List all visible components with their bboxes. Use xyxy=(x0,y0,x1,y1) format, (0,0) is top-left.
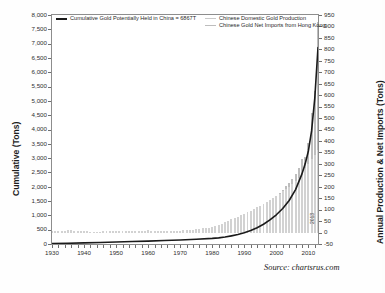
x-axis-tick-label: 2000 xyxy=(263,250,289,256)
x-axis-tick-label: 1950 xyxy=(103,250,129,256)
x-axis-tick-mark xyxy=(129,245,130,248)
x-axis-tick-mark xyxy=(174,245,175,248)
x-axis-tick-mark xyxy=(90,245,91,248)
y-axis-left-tick-label: 0 xyxy=(21,241,47,247)
x-axis-tick-mark xyxy=(264,245,265,248)
x-axis-tick-mark xyxy=(251,245,252,248)
x-axis-tick-mark xyxy=(206,245,207,248)
x-axis-tick-mark xyxy=(155,245,156,248)
y-axis-right-tick-mark xyxy=(319,95,322,96)
y-axis-left-tick-label: 1,500 xyxy=(21,198,47,204)
y-axis-left-tick-label: 7,500 xyxy=(21,26,47,32)
legend-label-domestic-production: Chinese Domestic Gold Production xyxy=(219,15,306,22)
x-axis-tick-mark xyxy=(135,245,136,248)
x-axis-tick-label: 1970 xyxy=(167,250,193,256)
x-axis-tick-mark xyxy=(257,245,258,248)
y-axis-left-tick-label: 3,500 xyxy=(21,141,47,147)
x-axis-tick-mark xyxy=(225,245,226,248)
x-axis-tick-mark xyxy=(219,245,220,248)
y-axis-right-tick-label: 0 xyxy=(324,229,350,235)
y-axis-right-tick-mark xyxy=(319,107,322,108)
y-axis-right-tick-label: 450 xyxy=(324,126,350,132)
y-axis-right-tick-label: 550 xyxy=(324,103,350,109)
y-axis-right-title: Annual Production & Net Imports (Tons) xyxy=(375,80,385,244)
y-axis-right-tick-mark xyxy=(319,198,322,199)
y-axis-right-tick-label: 100 xyxy=(324,206,350,212)
y-axis-right-tick-mark xyxy=(319,118,322,119)
x-axis-tick-mark xyxy=(123,245,124,248)
x-axis-tick-mark xyxy=(231,245,232,248)
legend-item-cumulative: Cumulative Gold Potentially Held in Chin… xyxy=(56,15,196,22)
y-axis-right-tick-label: 700 xyxy=(324,69,350,75)
cumulative-line-series xyxy=(52,15,319,245)
legend-label-hk-imports: Chinese Gold Net Imports from Hong Kong xyxy=(219,22,326,29)
y-axis-right-tick-label: 950 xyxy=(324,12,350,18)
y-axis-left-tick-label: 6,000 xyxy=(21,69,47,75)
y-axis-right-tick-mark xyxy=(319,152,322,153)
x-axis-tick-mark xyxy=(193,245,194,248)
y-axis-right-tick-mark xyxy=(319,130,322,131)
y-axis-right-tick-mark xyxy=(319,141,322,142)
y-axis-right-tick-mark xyxy=(319,175,322,176)
x-axis-end-year-label: 2013 xyxy=(309,213,315,224)
y-axis-right-tick-label: 600 xyxy=(324,92,350,98)
y-axis-left-tick-label: 5,000 xyxy=(21,98,47,104)
y-axis-right-tick-mark xyxy=(319,164,322,165)
x-axis-tick-mark xyxy=(302,245,303,248)
x-axis-tick-label: 1980 xyxy=(199,250,225,256)
x-axis-tick-mark xyxy=(296,245,297,248)
y-axis-left-tick-label: 2,500 xyxy=(21,169,47,175)
y-axis-left-tick-label: 8,000 xyxy=(21,12,47,18)
x-axis-tick-mark xyxy=(238,245,239,248)
x-axis-tick-label: 1990 xyxy=(231,250,257,256)
x-axis-tick-mark xyxy=(283,245,284,248)
x-axis-tick-mark xyxy=(84,245,85,248)
x-axis-tick-mark xyxy=(78,245,79,248)
y-axis-left-tick-label: 5,500 xyxy=(21,83,47,89)
x-axis-tick-mark xyxy=(270,245,271,248)
legend-item-hk-imports: Chinese Gold Net Imports from Hong Kong xyxy=(205,22,326,29)
x-axis-tick-mark xyxy=(116,245,117,248)
legend-left: Cumulative Gold Potentially Held in Chin… xyxy=(56,15,196,22)
y-axis-right-tick-label: 350 xyxy=(324,149,350,155)
x-axis-tick-mark xyxy=(167,245,168,248)
x-axis-tick-mark xyxy=(148,245,149,248)
y-axis-right-tick-mark xyxy=(319,233,322,234)
y-axis-right-tick-label: 400 xyxy=(324,138,350,144)
x-axis-tick-mark xyxy=(199,245,200,248)
y-axis-right-tick-label: 150 xyxy=(324,195,350,201)
y-axis-right-tick-mark xyxy=(319,221,322,222)
x-axis-tick-mark xyxy=(244,245,245,248)
y-axis-left-tick-label: 6,500 xyxy=(21,55,47,61)
y-axis-right-tick-label: 50 xyxy=(324,218,350,224)
y-axis-left-tick-label: 1,000 xyxy=(21,212,47,218)
legend-line-swatch-icon xyxy=(56,18,67,20)
x-axis-tick-mark xyxy=(276,245,277,248)
y-axis-right-tick-label: 500 xyxy=(324,115,350,121)
y-axis-right-tick-label: 750 xyxy=(324,58,350,64)
y-axis-left-tick-label: 4,500 xyxy=(21,112,47,118)
y-axis-left-tick-label: 7,000 xyxy=(21,40,47,46)
x-axis-tick-mark xyxy=(110,245,111,248)
x-axis-tick-mark xyxy=(161,245,162,248)
x-axis-tick-mark xyxy=(289,245,290,248)
x-axis-tick-mark xyxy=(52,245,53,248)
y-axis-right-tick-label: 300 xyxy=(324,161,350,167)
y-axis-right-tick-mark xyxy=(319,72,322,73)
legend-bar2-swatch-icon xyxy=(205,25,216,27)
y-axis-left-tick-label: 2,000 xyxy=(21,184,47,190)
y-axis-right-tick-mark xyxy=(319,38,322,39)
y-axis-right-tick-label: 900 xyxy=(324,23,350,29)
y-axis-right-tick-label: 850 xyxy=(324,35,350,41)
plot-area xyxy=(51,14,319,245)
x-axis-tick-mark xyxy=(58,245,59,248)
legend-bar-swatch-icon xyxy=(205,18,216,20)
x-axis-tick-label: 1940 xyxy=(71,250,97,256)
y-axis-left-tick-label: 3,000 xyxy=(21,155,47,161)
y-axis-left-tick-label: 500 xyxy=(21,226,47,232)
y-axis-left-title: Cumulative (Tons) xyxy=(11,122,21,196)
y-axis-right-tick-mark xyxy=(319,187,322,188)
x-axis-tick-mark xyxy=(180,245,181,248)
y-axis-right-tick-label: 650 xyxy=(324,81,350,87)
